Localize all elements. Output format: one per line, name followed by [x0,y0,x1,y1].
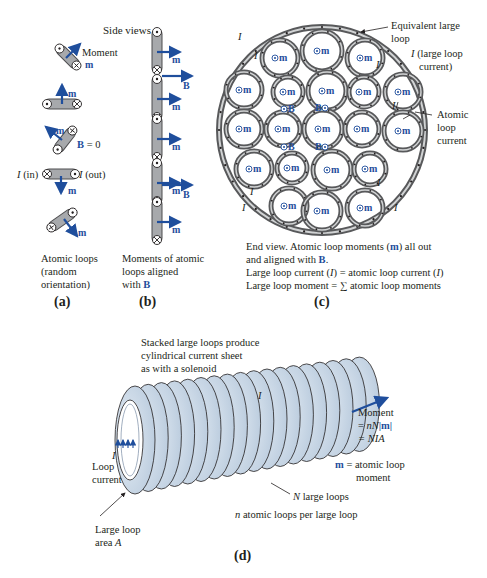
solenoid-moment-title: Moment [358,406,394,419]
solenoid-current-i: I [258,389,262,402]
moment-m-label: m [321,44,329,57]
aligned-text: and aligned with [246,254,319,265]
moment-m-label: m [364,51,372,64]
moment-m-label: m [243,83,251,96]
i-symbol: I [411,48,415,59]
m-def-text: = atomic loop [344,459,405,470]
m-label-4: m [68,184,76,197]
m-label-3: m [56,124,64,137]
large-loop-current-label-1: I (large loop [411,47,463,60]
A-symbol: A [115,537,121,548]
b-field-label: B [315,140,322,153]
moment-m-label: m [369,162,377,175]
b-field-label: B [183,188,190,201]
eq-text-b: ) = atomic loop current ( [334,267,437,278]
m-symbol: m [390,241,399,252]
moment-m-label: m [243,122,251,135]
b-field-label: B [288,140,295,153]
loop-current-label-2: current [92,473,122,486]
b-out-icon [281,106,287,112]
stacked-desc-3: as with a solenoid [141,362,217,375]
large-loop-moment-equation: Large loop moment = ∑ atomic loop moment… [246,279,441,292]
moment-m-label: m [402,85,410,98]
large-loops-text: large loops [300,491,349,502]
b-out-icon [322,105,328,111]
m-definition-1: m = atomic loop [335,458,405,471]
moment-m-label: m [326,84,334,97]
b-equals-zero-label: B = 0 [77,138,100,151]
m-label: m [172,223,180,236]
large-loop-area-label-2: area A [95,536,122,549]
period: . [326,254,329,265]
current-i-label: I [377,176,381,189]
current-i-label: I [250,185,254,198]
large-loop-text: (large loop [417,48,463,59]
area-pointer [100,493,125,516]
N-symbol: N [293,491,300,502]
moment-m-label: m [321,204,329,217]
panel-c-caption: (c) [314,294,330,310]
b-symbol: B [77,139,84,150]
large-loop-current-equation: Large loop current (I) = atomic loop cur… [246,266,444,279]
n-atomic-loops-label: n atomic loops per large loop [235,508,358,521]
equivalent-loop-pointer [361,27,388,32]
atomic-loop-current-label-3: current [437,134,467,147]
b-field-label: B [288,102,295,115]
b-symbol: B [319,254,326,265]
moment-m-label: m [363,85,371,98]
large-loop-current-label-2: current) [419,60,452,73]
stacked-desc-2: cylindrical current sheet [141,349,242,362]
with-text: with [122,279,143,290]
equivalent-loop-label-1: Equivalent large [391,19,460,32]
atomic-loops-desc-1: Atomic loops [41,252,98,265]
moment-m-label: m [361,122,369,135]
current-i-label: I [376,58,380,71]
aligned-desc-2: loops aligned [122,265,178,278]
b-eq-zero: = 0 [84,139,100,150]
m-label: m [172,53,180,66]
atomic-loop-5 [45,206,79,234]
moment-m-label: m [279,51,287,64]
b-field-label: B [315,101,322,114]
b-out-icon [322,144,328,150]
atomic-loops-text: atomic loops per large loop [240,509,357,520]
end-view-text-a: End view. Atomic loop moments ( [246,241,390,252]
aligned-desc-3: with B [122,278,150,291]
stacked-desc-1: Stacked large loops produce [141,336,259,349]
b-field-label: B [183,79,190,92]
moment-m-label: m [288,199,296,212]
atomic-loop-current-label-2: loop [437,121,456,134]
loop-current-label-1: Loop [92,460,114,473]
atomic-loops-desc-3: orientation) [41,278,90,291]
current-i-label: I [254,49,258,62]
moment-m-label: m [322,122,330,135]
m-symbol: m [335,459,344,470]
moment-m-label: m [291,161,299,174]
abs-m-symbol: |m| [379,420,392,431]
atomic-loop-current-label-1: Atomic [437,108,469,121]
panel-a-caption: (a) [54,294,70,310]
moment-m-label: m [331,163,339,176]
solenoid-moment-eq-2: = NIA [358,432,385,445]
equivalent-loop-label-2: loop [391,32,410,45]
moment-m-label: m [287,85,295,98]
m-label-5: m [78,226,86,239]
out-text: (out) [83,169,106,180]
area-text: area [95,537,115,548]
current-i-label: I [394,201,398,214]
eq-text-a: Large loop current ( [246,267,330,278]
current-i-label: I [392,99,396,112]
moment-m-label: m [282,122,290,135]
solenoid-moment-eq-1: = nN|m| [358,419,392,432]
atomic-loops-desc-2: (random [41,265,77,278]
b-out-icon [281,144,287,150]
m-label: m [172,140,180,153]
eq-sign: = [358,420,367,431]
moment-vector-5 [64,219,77,236]
moment-m-label: m [364,201,372,214]
end-view-line-2: and aligned with B. [246,253,328,266]
large-loop-area-label-1: Large loop [95,523,141,536]
m-label: m [172,100,180,113]
in-text: (in) [21,169,39,180]
moment-m-label: m [402,124,410,137]
